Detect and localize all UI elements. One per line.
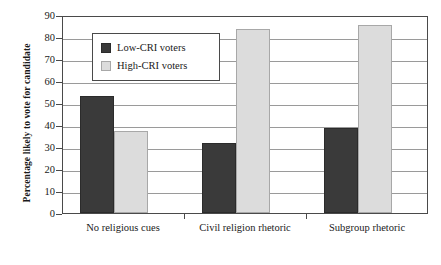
y-axis-tick-label: 50 (25, 99, 55, 110)
bar-chart: Percentage likely to vote for candidate … (0, 0, 441, 265)
bar (114, 131, 148, 214)
y-axis-tick-label: 20 (25, 165, 55, 176)
legend-swatch-icon (101, 43, 111, 53)
y-axis-tick-label: 10 (25, 187, 55, 198)
x-axis-tick-mark (306, 214, 307, 219)
y-axis-tick-label: 70 (25, 55, 55, 66)
legend-entry-low-cri: Low-CRI voters (101, 39, 219, 57)
bar (80, 96, 114, 213)
x-axis-tick-label: Civil religion rhetoric (199, 222, 291, 233)
bar (202, 143, 236, 213)
legend-label: High-CRI voters (117, 61, 187, 72)
y-axis-tick-label: 90 (25, 11, 55, 22)
bar (236, 29, 270, 213)
y-axis-tick-label: 60 (25, 77, 55, 88)
legend-entry-high-cri: High-CRI voters (101, 57, 219, 75)
y-axis-tick-label: 30 (25, 143, 55, 154)
x-axis-tick-label: No religious cues (86, 222, 160, 233)
y-axis-tick-label: 40 (25, 121, 55, 132)
x-axis-tick-mark (184, 214, 185, 219)
legend-label: Low-CRI voters (117, 43, 186, 54)
bar (324, 128, 358, 213)
legend-swatch-icon (101, 61, 111, 71)
bar (358, 25, 392, 213)
y-axis-tick-label: 0 (25, 209, 55, 220)
x-axis-tick-label: Subgroup rhetoric (329, 222, 405, 233)
chart-legend: Low-CRI voters High-CRI voters (92, 33, 220, 81)
y-axis-tick-label: 80 (25, 33, 55, 44)
